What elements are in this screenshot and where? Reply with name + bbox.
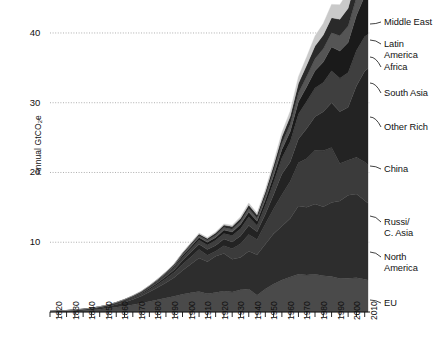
series-label-other-rich: Other Rich	[384, 122, 428, 133]
series-label-eu: EU	[384, 298, 397, 309]
x-tick-label: 1820	[54, 301, 64, 320]
stacked-areas	[50, 0, 368, 312]
series-label-china: China	[384, 164, 408, 175]
series-label-russia-c-asia: Russi/ C. Asia	[384, 217, 413, 238]
y-tick-label: 10	[14, 236, 40, 247]
chart-figure: Annual GtCO2e 10203040 18201830184018501…	[0, 0, 448, 357]
series-label-south-asia: South Asia	[384, 88, 428, 99]
y-tick-label: 40	[14, 27, 40, 38]
x-tick-label: 1980	[319, 301, 329, 320]
x-tick-label: 1930	[236, 301, 246, 320]
series-label-north-america: North America	[384, 252, 418, 273]
x-tick-label: 1960	[286, 301, 296, 320]
y-tick-label: 20	[14, 166, 40, 177]
x-tick-label: 1940	[253, 301, 263, 320]
x-tick-label: 1880	[153, 301, 163, 320]
x-tick-label: 1840	[87, 301, 97, 320]
x-tick-label: 2000	[352, 301, 362, 320]
x-tick-label: 1900	[187, 301, 197, 320]
x-tick-label: 1950	[269, 301, 279, 320]
x-tick-label: 2010	[369, 301, 379, 320]
x-tick-label: 1990	[336, 301, 346, 320]
series-label-latin-america: Latin America	[384, 39, 418, 60]
x-tick-label: 1910	[203, 301, 213, 320]
x-tick-label: 1970	[302, 301, 312, 320]
series-label-middle-east: Middle East	[384, 17, 432, 28]
x-tick-label: 1850	[104, 301, 114, 320]
series-label-africa: Africa	[384, 62, 407, 73]
x-tick-label: 1890	[170, 301, 180, 320]
label-leader-lines	[370, 22, 381, 303]
x-tick-label: 1920	[220, 301, 230, 320]
y-tick-label: 30	[14, 97, 40, 108]
x-tick-label: 1830	[71, 301, 81, 320]
x-tick-label: 1860	[120, 301, 130, 320]
x-tick-label: 1870	[137, 301, 147, 320]
